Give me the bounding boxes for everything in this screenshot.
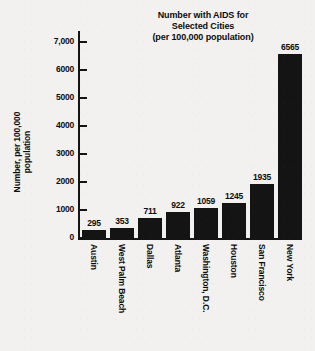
- plot-area: 01000200030004000500060007,000 295Austin…: [78, 31, 302, 240]
- bar[interactable]: [250, 184, 274, 238]
- bar[interactable]: [194, 208, 218, 238]
- bar[interactable]: [138, 218, 162, 238]
- y-axis-label-line-1: Number, per 100,000: [12, 97, 22, 207]
- x-tick-label: Houston: [229, 244, 239, 278]
- bar-group[interactable]: 1245Houston: [222, 31, 246, 238]
- x-tick-label: Austin: [89, 244, 99, 270]
- bar[interactable]: [278, 54, 302, 238]
- y-axis-label-line-2: population: [22, 97, 32, 207]
- y-tick-label: 1000: [32, 204, 74, 214]
- chart-title-line-1: Number with AIDS for: [108, 10, 298, 21]
- x-tick-label: San Francisco: [257, 244, 267, 301]
- y-tick-label: 5000: [32, 92, 74, 102]
- bar[interactable]: [222, 203, 246, 238]
- bar-value-label: 353: [115, 216, 129, 226]
- bar-value-label: 295: [87, 218, 101, 228]
- bar-group[interactable]: 6565New York: [278, 31, 302, 238]
- y-tick-label: 2000: [32, 176, 74, 186]
- x-tick-label: New York: [285, 244, 295, 281]
- bar-value-label: 1935: [253, 172, 271, 182]
- bar[interactable]: [166, 212, 190, 238]
- x-tick-label: West Palm Beach: [117, 244, 127, 313]
- chart-figure: Number with AIDS for Selected Cities (pe…: [0, 0, 315, 351]
- bar-value-label: 1059: [197, 196, 215, 206]
- y-axis-label: Number, per 100,000 population: [12, 97, 32, 207]
- y-tick-label: 0: [32, 232, 74, 242]
- x-tick-label: Dallas: [145, 244, 155, 268]
- bar-group[interactable]: 1059Washington, D.C.: [194, 31, 218, 238]
- bar[interactable]: [82, 230, 106, 238]
- bar-value-label: 711: [143, 206, 156, 216]
- y-tick-label: 7,000: [32, 36, 74, 46]
- y-tick-label: 6000: [32, 64, 74, 74]
- x-tick-label: Atlanta: [173, 244, 183, 272]
- x-tick-label: Washington, D.C.: [201, 244, 211, 312]
- y-tick-label: 3000: [32, 148, 74, 158]
- bar-group[interactable]: 353West Palm Beach: [110, 31, 134, 238]
- bar-group[interactable]: 1935San Francisco: [250, 31, 274, 238]
- bar-value-label: 922: [171, 200, 185, 210]
- bar-value-label: 6565: [281, 42, 299, 52]
- bar-value-label: 1245: [225, 191, 243, 201]
- bar-group[interactable]: 922Atlanta: [166, 31, 190, 238]
- bar[interactable]: [110, 228, 134, 238]
- y-tick-label: 4000: [32, 120, 74, 130]
- bar-series: 295Austin353West Palm Beach711Dallas922A…: [78, 31, 302, 238]
- bar-group[interactable]: 295Austin: [82, 31, 106, 238]
- bar-group[interactable]: 711Dallas: [138, 31, 162, 238]
